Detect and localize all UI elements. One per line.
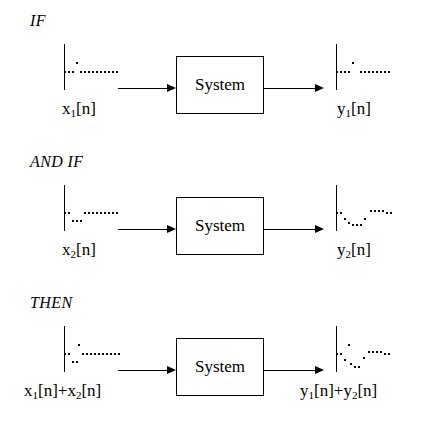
input-label-rest: [n]+x — [38, 381, 76, 400]
output-label-subscript-2: 2 — [352, 389, 358, 401]
input-label-rest: [n] — [76, 99, 96, 118]
input-signal-label-x2: x2[n] — [62, 241, 96, 258]
linearity-figure: IF x1[n] System — [0, 0, 421, 427]
arrow-shaft — [118, 370, 168, 371]
input-signal-label-x1: x1[n] — [62, 100, 96, 117]
arrow-shaft — [118, 88, 168, 89]
output-label-rest: [n] — [351, 99, 371, 118]
output-label-subscript: 2 — [346, 248, 352, 260]
output-signal-plot-sum — [328, 326, 421, 378]
arrow-shaft — [118, 229, 168, 230]
arrow-shaft — [263, 88, 316, 89]
output-label-rest: [n] — [351, 240, 371, 259]
figure-row-and-if: AND IF x2[n] System — [0, 141, 421, 281]
output-signal-label-y1: y1[n] — [337, 100, 371, 117]
condition-label-and-if: AND IF — [30, 153, 84, 171]
input-label-rest-2: [n] — [81, 381, 101, 400]
plot-vertical-axis — [64, 44, 65, 90]
output-label-rest-2: [n] — [357, 381, 377, 400]
system-block: System — [176, 56, 264, 114]
input-label-subscript: 1 — [33, 389, 39, 401]
output-signal-label-y2: y2[n] — [337, 241, 371, 258]
figure-row-then: THEN x1[n]+x2[n] System — [0, 282, 421, 422]
condition-label-then: THEN — [30, 294, 73, 312]
arrow-head-icon — [315, 366, 324, 374]
system-block-label: System — [177, 339, 263, 395]
arrow-shaft — [263, 370, 316, 371]
input-label-base: x — [62, 240, 71, 259]
input-label-subscript-2: 2 — [76, 389, 82, 401]
output-signal-label-sum: y1[n]+y2[n] — [300, 382, 377, 399]
input-label-base: x — [62, 99, 71, 118]
system-block-label: System — [177, 198, 263, 254]
output-label-base: y — [337, 99, 346, 118]
output-label-subscript: 1 — [346, 107, 352, 119]
output-signal-plot-y1 — [328, 44, 421, 96]
arrow-head-icon — [167, 366, 176, 374]
plot-vertical-axis — [336, 326, 337, 372]
arrow-head-icon — [167, 84, 176, 92]
signal-out-arrow — [263, 84, 325, 93]
condition-label-if: IF — [30, 12, 46, 30]
signal-in-arrow — [118, 225, 176, 234]
input-label-subscript: 1 — [71, 107, 77, 119]
signal-in-arrow — [118, 366, 176, 375]
input-label-base: x — [24, 381, 33, 400]
input-label-rest: [n] — [76, 240, 96, 259]
system-block: System — [176, 197, 264, 255]
arrow-head-icon — [167, 225, 176, 233]
input-signal-label-sum: x1[n]+x2[n] — [24, 382, 101, 399]
output-label-subscript: 1 — [309, 389, 315, 401]
system-block: System — [176, 338, 264, 396]
arrow-head-icon — [315, 225, 324, 233]
output-label-base: y — [337, 240, 346, 259]
plot-vertical-axis — [336, 44, 337, 90]
plot-vertical-axis — [64, 185, 65, 231]
output-label-base: y — [300, 381, 309, 400]
output-label-rest: [n]+y — [314, 381, 352, 400]
signal-out-arrow — [263, 225, 325, 234]
plot-vertical-axis — [336, 185, 337, 231]
figure-row-if: IF x1[n] System — [0, 0, 421, 140]
signal-out-arrow — [263, 366, 325, 375]
input-label-subscript: 2 — [71, 248, 77, 260]
output-signal-plot-y2 — [328, 185, 421, 237]
arrow-shaft — [263, 229, 316, 230]
system-block-label: System — [177, 57, 263, 113]
signal-in-arrow — [118, 84, 176, 93]
plot-vertical-axis — [64, 326, 65, 372]
arrow-head-icon — [315, 84, 324, 92]
